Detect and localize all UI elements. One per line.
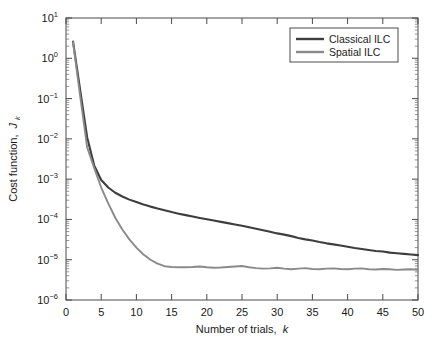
x-tick-label: 15: [165, 306, 177, 318]
cost-function-log-plot: 10−610−510−410−310−210−1100101 051015202…: [0, 0, 440, 342]
x-tick-label: 25: [236, 306, 248, 318]
svg-text:Number of trials, k: Number of trials, k: [196, 323, 289, 335]
chart-figure: 10−610−510−410−310−210−1100101 051015202…: [0, 0, 440, 342]
x-axis-title: Number of trials, k: [196, 323, 289, 335]
x-axis-title-text: Number of trials,: [196, 323, 277, 335]
x-tick-label: 35: [306, 306, 318, 318]
x-axis-title-variable: k: [283, 323, 289, 335]
legend: Classical ILCSpatial ILC: [290, 28, 398, 62]
x-tick-label: 20: [201, 306, 213, 318]
x-tick-label: 40: [341, 306, 353, 318]
x-tick-label: 0: [63, 306, 69, 318]
x-tick-label: 5: [98, 306, 104, 318]
y-axis-title-variable: J: [7, 122, 19, 129]
x-tick-label: 30: [271, 306, 283, 318]
x-tick-label: 45: [377, 306, 389, 318]
y-axis-title-text: Cost function,: [7, 135, 19, 202]
x-tick-label: 50: [412, 306, 424, 318]
legend-label-spatial-ilc: Spatial ILC: [329, 46, 381, 58]
legend-label-classical-ilc: Classical ILC: [329, 33, 391, 45]
x-tick-label: 10: [130, 306, 142, 318]
